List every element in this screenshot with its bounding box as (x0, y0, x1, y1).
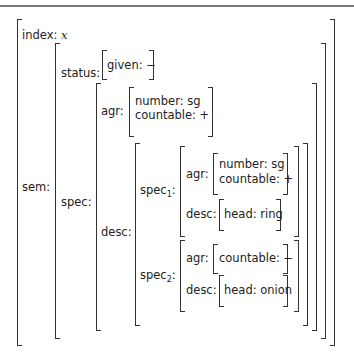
spec-label: spec: (61, 195, 92, 209)
desc-right-bracket (303, 143, 308, 326)
spec1-head-value: ring (260, 207, 283, 221)
spec2-head-feature: head: onion (224, 283, 292, 297)
sem-left-bracket (55, 43, 60, 339)
spec2-head-value: onion (260, 283, 292, 297)
spec1-left-bracket (180, 146, 185, 237)
spec2-agr-label: agr: (186, 251, 209, 265)
spec2-countable-value: − (284, 251, 294, 265)
spec-right-bracket (312, 83, 317, 331)
agr-left-bracket (129, 87, 134, 137)
number-label: number: (135, 94, 184, 108)
sem-label: sem: (22, 180, 50, 194)
given-value: − (146, 58, 156, 72)
spec1-number-value: sg (271, 157, 284, 171)
status-label: status: (61, 66, 100, 80)
number-feature: number: sg (135, 94, 201, 108)
spec1-colon: : (172, 183, 176, 197)
spec2-desc-label: desc: (186, 283, 217, 297)
desc-label: desc: (101, 225, 132, 239)
spec-left-bracket (96, 83, 101, 331)
spec1-countable-feature: countable: + (219, 172, 293, 186)
spec1-countable-label: countable: (219, 172, 280, 186)
top-rule (0, 5, 354, 7)
spec1-right-bracket (294, 146, 299, 237)
spec1-desc-label: desc: (186, 207, 217, 221)
desc-left-bracket (135, 143, 140, 326)
spec2-left-bracket (180, 240, 185, 312)
agr-label: agr: (101, 104, 124, 118)
spec2-countable-label: countable: (219, 251, 280, 265)
spec2-label: spec2: (140, 268, 176, 287)
number-value: sg (187, 94, 200, 108)
spec2-colon: : (172, 268, 176, 282)
index-value: x (61, 28, 68, 42)
spec1-agr-left-bracket (213, 153, 218, 195)
spec1-countable-value: + (284, 172, 294, 186)
index-label: index: (22, 28, 57, 42)
outer-right-bracket (330, 19, 335, 346)
spec1-name: spec (140, 183, 167, 197)
spec1-agr-label: agr: (186, 167, 209, 181)
countable-label: countable: (135, 108, 196, 122)
sem-right-bracket (321, 43, 326, 339)
countable-feature: countable: + (135, 108, 209, 122)
spec2-countable-feature: countable: − (219, 251, 293, 265)
spec2-right-bracket (294, 240, 299, 312)
spec1-label: spec1: (140, 183, 176, 202)
given-label: given: (107, 58, 143, 72)
spec1-head-feature: head: ring (224, 207, 283, 221)
spec2-name: spec (140, 268, 167, 282)
spec1-number-feature: number: sg (219, 157, 285, 171)
countable-value: + (200, 108, 210, 122)
spec1-head-label: head: (224, 207, 257, 221)
spec1-number-label: number: (219, 157, 268, 171)
spec2-agr-left-bracket (213, 244, 218, 274)
index-feature: index: x (22, 28, 68, 42)
given-feature: given: − (107, 58, 156, 72)
spec2-head-label: head: (224, 283, 257, 297)
